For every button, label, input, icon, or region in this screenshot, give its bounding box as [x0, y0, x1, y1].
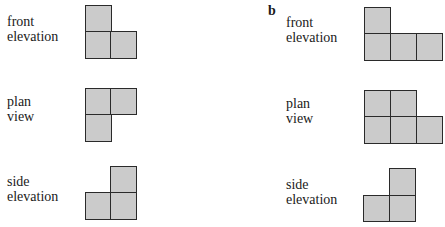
cell [364, 90, 391, 117]
label-line: side [7, 174, 58, 189]
cell [416, 33, 443, 61]
cell [390, 116, 417, 144]
cell [85, 88, 112, 115]
cell [390, 33, 417, 61]
label-line: plan [286, 96, 313, 111]
cell [85, 31, 112, 59]
label-line: elevation [7, 29, 58, 44]
cell [85, 114, 112, 142]
cell [85, 192, 112, 220]
label-line: front [7, 14, 58, 29]
label-line: elevation [286, 30, 337, 45]
label-line: plan [7, 94, 34, 109]
label-line: front [286, 15, 337, 30]
cell [110, 192, 137, 220]
label-plan-view-a: plan view [7, 94, 34, 124]
cell [364, 7, 391, 34]
cell [389, 168, 416, 196]
cell [110, 88, 137, 115]
cell [416, 116, 443, 144]
label-line: elevation [7, 189, 58, 204]
cell [390, 90, 417, 117]
cell [110, 166, 137, 193]
cell [85, 5, 112, 32]
label-side-elevation-b: side elevation [286, 177, 337, 207]
label-line: side [286, 177, 337, 192]
label-plan-view-b: plan view [286, 96, 313, 126]
cell [389, 195, 416, 222]
cell [363, 195, 390, 222]
label-line: view [7, 109, 34, 124]
label-front-elevation-a: front elevation [7, 14, 58, 44]
cell [110, 31, 137, 59]
label-line: view [286, 111, 313, 126]
label-front-elevation-b: front elevation [286, 15, 337, 45]
label-line: elevation [286, 192, 337, 207]
panel-letter-b: b [268, 4, 276, 18]
cell [364, 116, 391, 144]
label-side-elevation-a: side elevation [7, 174, 58, 204]
cell [364, 33, 391, 61]
